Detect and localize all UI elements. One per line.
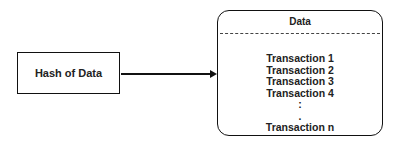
transaction-item: Transaction 1 (218, 53, 382, 65)
dashed-divider (220, 33, 380, 34)
transaction-list: Transaction 1 Transaction 2 Transaction … (218, 53, 382, 134)
arrowhead-icon (210, 70, 217, 78)
data-title: Data (218, 16, 382, 27)
hash-of-data-box: Hash of Data (17, 52, 120, 94)
transaction-item: Transaction 3 (218, 76, 382, 88)
ellipsis-mark: : (218, 99, 382, 111)
hash-of-data-label: Hash of Data (35, 67, 102, 79)
data-block: Data Transaction 1 Transaction 2 Transac… (217, 10, 383, 136)
transaction-item: Transaction n (218, 122, 382, 134)
pointer-line (121, 73, 211, 75)
